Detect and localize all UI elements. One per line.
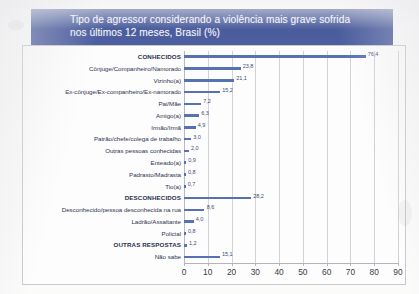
bar-row: 3,0: [184, 133, 398, 145]
bar-row: 7,2: [184, 98, 398, 110]
bar-row: 1,2: [184, 239, 398, 251]
bar-value-label: 6,3: [201, 110, 209, 116]
bar: [184, 209, 204, 212]
x-tick-label: 10: [203, 267, 212, 277]
bar-row: 0,8: [184, 169, 398, 181]
bar-row: 4,0: [184, 216, 398, 228]
x-tick-label: 90: [393, 267, 402, 277]
bar: [184, 138, 191, 141]
bar-row: 2,0: [184, 145, 398, 157]
chart-plot-frame: CONHECIDOSCônjuge/Companheiro/NamoradoVi…: [22, 45, 406, 285]
category-label: CONHECIDOS: [138, 51, 181, 63]
x-tick-mark: [208, 263, 209, 266]
bar: [184, 79, 234, 82]
chart-page: Tipo de agressor considerando a violênci…: [0, 0, 419, 294]
category-label: Ladrão/Assaltante: [131, 216, 181, 228]
chart-title-banner: Tipo de agressor considerando a violênci…: [31, 9, 393, 45]
bar: [184, 126, 196, 129]
bar-value-label: 15,2: [222, 87, 233, 93]
x-tick-mark: [232, 263, 233, 266]
category-label: OUTRAS RESPOSTAS: [114, 239, 181, 251]
category-label: Policial: [162, 228, 181, 240]
bar-row: 0,8: [184, 228, 398, 240]
bar: [184, 256, 220, 259]
chart-title-line-2: nos últimos 12 meses, Brasil (%): [70, 26, 393, 39]
x-tick-mark: [184, 263, 185, 266]
bar-row: 15,1: [184, 251, 398, 263]
bar-value-label: 15,1: [222, 251, 233, 257]
x-tick-mark: [374, 263, 375, 266]
bar-row: 21,1: [184, 75, 398, 87]
bar: [184, 67, 241, 70]
category-label: Enteado(a): [151, 157, 181, 169]
x-tick-label: 30: [251, 267, 260, 277]
bar: [184, 185, 186, 188]
x-tick-mark: [303, 263, 304, 266]
x-axis-line: [184, 263, 399, 264]
bar-value-label: 4,0: [196, 216, 204, 222]
category-label: Desconhecido/pessoa desconhecida na rua: [62, 204, 181, 216]
category-label: Outras pessoas conhecidas: [105, 145, 181, 157]
x-tick-label: 50: [298, 267, 307, 277]
x-tick-mark: [350, 263, 351, 266]
bar-value-label: 4,9: [198, 122, 206, 128]
category-label: Vizinho(a): [153, 75, 181, 87]
bar-row: 6,3: [184, 110, 398, 122]
bar-row: 0,7: [184, 181, 398, 193]
category-label: Tio(a): [165, 181, 181, 193]
bar: [184, 91, 220, 94]
category-label: Patrão/chefe/colega de trabalho: [94, 133, 181, 145]
bar-row: 76,4: [184, 51, 398, 63]
x-tick-label: 70: [346, 267, 355, 277]
category-label: Ex-cônjuge/Ex-companheiro/Ex-namorado: [65, 86, 181, 98]
category-label: Pai/Mãe: [158, 98, 181, 110]
bar-value-label: 0,8: [188, 169, 196, 175]
category-label: DESCONHECIDOS: [125, 192, 181, 204]
scan-artifact: [8, 20, 24, 30]
x-tick-mark: [327, 263, 328, 266]
bar-value-label: 3,0: [193, 134, 201, 140]
x-tick-mark: [279, 263, 280, 266]
bar-row: 4,9: [184, 122, 398, 134]
bar: [184, 103, 201, 106]
gridline-90: [398, 51, 399, 263]
bar: [184, 161, 186, 164]
bar-row: 15,2: [184, 86, 398, 98]
category-label: Amigo(a): [156, 110, 181, 122]
bar-row: 28,2: [184, 192, 398, 204]
bar-row: 23,8: [184, 63, 398, 75]
bar-row: 8,6: [184, 204, 398, 216]
x-tick-label: 20: [227, 267, 236, 277]
bar-value-label: 23,8: [243, 63, 254, 69]
bar: [184, 197, 251, 200]
plot-area: 76,423,821,115,27,26,34,93,02,00,90,80,7…: [184, 51, 398, 263]
bar-value-label: 0,8: [188, 228, 196, 234]
x-tick-mark: [398, 263, 399, 266]
chart-title-line-1: Tipo de agressor considerando a violênci…: [70, 13, 393, 26]
bar: [184, 244, 187, 247]
x-tick-label: 60: [322, 267, 331, 277]
bar-value-label: 21,1: [236, 75, 247, 81]
bar-value-label: 0,7: [188, 181, 196, 187]
category-axis-labels: CONHECIDOSCônjuge/Companheiro/NamoradoVi…: [23, 51, 181, 263]
category-label: Irmão/Irmã: [151, 122, 181, 134]
x-tick-label: 40: [274, 267, 283, 277]
bar: [184, 173, 186, 176]
category-label: Padrasto/Madrasta: [129, 169, 181, 181]
bar-value-label: 76,4: [368, 51, 379, 57]
bar: [184, 232, 186, 235]
bar: [184, 150, 189, 153]
bar-value-label: 1,2: [189, 240, 197, 246]
bar: [184, 114, 199, 117]
bar-value-label: 8,6: [207, 204, 215, 210]
x-tick-mark: [255, 263, 256, 266]
category-label: Não sabe: [155, 251, 181, 263]
bar-series: 76,423,821,115,27,26,34,93,02,00,90,80,7…: [184, 51, 398, 263]
category-label: Cônjuge/Companheiro/Namorado: [89, 63, 181, 75]
bar-value-label: 2,0: [191, 145, 199, 151]
bar-value-label: 28,2: [253, 193, 264, 199]
bar-value-label: 0,9: [188, 157, 196, 163]
bar: [184, 220, 194, 223]
bar-value-label: 7,2: [203, 98, 211, 104]
bar-row: 0,9: [184, 157, 398, 169]
